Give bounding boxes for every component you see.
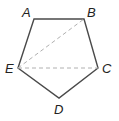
vertex-label-b: B: [87, 6, 96, 19]
vertex-label-e: E: [5, 62, 14, 75]
vertex-label-d: D: [54, 103, 63, 116]
vertex-label-a: A: [22, 6, 31, 19]
pentagon-diagram: A B C D E: [0, 0, 119, 121]
diagonal-eb: [18, 19, 84, 68]
vertex-label-c: C: [102, 62, 111, 75]
